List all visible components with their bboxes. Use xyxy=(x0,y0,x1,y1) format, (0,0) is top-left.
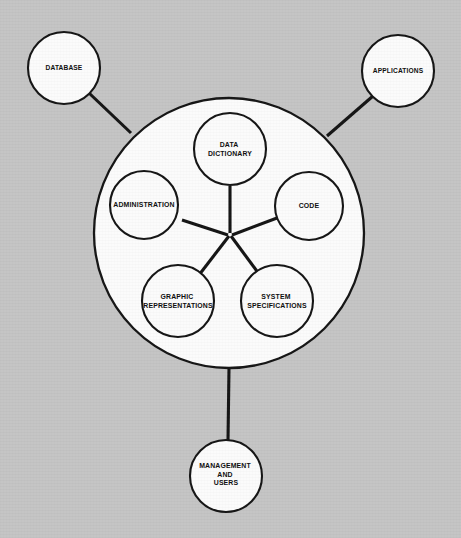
database-label: DATABASE xyxy=(46,64,83,71)
inner-node-code[interactable]: CODE xyxy=(275,172,343,240)
applications-label: APPLICATIONS xyxy=(373,67,424,74)
diagram-canvas: DATA DICTIONARY CODE SYSTEM SPECIFICATIO… xyxy=(0,0,461,538)
diagram-svg: DATA DICTIONARY CODE SYSTEM SPECIFICATIO… xyxy=(0,0,461,538)
code-label: CODE xyxy=(299,202,320,209)
administration-label: ADMINISTRATION xyxy=(113,201,174,208)
external-node-management-and-users[interactable]: MANAGEMENT AND USERS xyxy=(190,440,262,512)
connector-database-to-system xyxy=(89,93,131,133)
inner-node-data-dictionary[interactable]: DATA DICTIONARY xyxy=(194,113,266,185)
inner-node-administration[interactable]: ADMINISTRATION xyxy=(110,171,178,239)
inner-node-system-specifications[interactable]: SYSTEM SPECIFICATIONS xyxy=(241,265,313,337)
connector-applications-to-system xyxy=(327,96,373,136)
inner-node-graphic-representations[interactable]: GRAPHIC REPRESENTATIONS xyxy=(142,265,214,337)
connector-management-to-system xyxy=(228,368,229,440)
external-node-applications[interactable]: APPLICATIONS xyxy=(362,35,434,107)
external-node-database[interactable]: DATABASE xyxy=(28,32,100,104)
